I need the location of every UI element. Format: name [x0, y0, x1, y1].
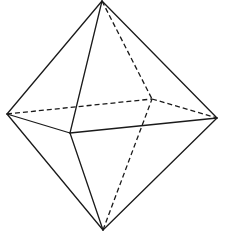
edge-bottom-back-hidden [103, 99, 152, 230]
octahedron-diagram [0, 0, 231, 250]
edge-left-back-hidden [7, 99, 152, 114]
edge-top-back-hidden [102, 1, 152, 99]
edge-bottom-front [70, 133, 103, 230]
edge-top-right [102, 1, 217, 118]
edge-left-front [7, 114, 70, 133]
octahedron-edges [7, 1, 217, 230]
edge-bottom-right [103, 118, 217, 230]
